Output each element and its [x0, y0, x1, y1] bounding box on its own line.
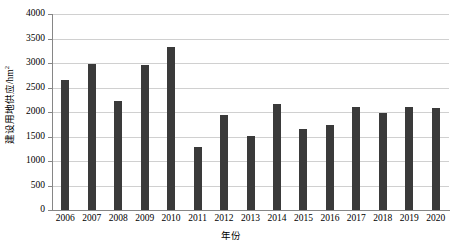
y-axis-unit-superscript: 2: [3, 66, 10, 69]
x-axis-line: [52, 210, 450, 211]
bar: [379, 113, 387, 210]
y-axis-tick-label: 0: [14, 205, 45, 215]
bar: [326, 125, 334, 210]
y-axis-tick-label: 2000: [14, 107, 45, 117]
y-axis-tick-label: 3000: [14, 58, 45, 68]
bar: [247, 136, 255, 210]
bar: [352, 107, 360, 210]
bar: [114, 101, 122, 210]
bar: [167, 47, 175, 210]
bar: [141, 65, 149, 210]
bar-chart: 建设用地供应/hm2 05001000150020002500300035004…: [0, 0, 461, 252]
bar: [220, 115, 228, 210]
bar: [273, 104, 281, 210]
bar: [299, 129, 307, 210]
y-axis-tick-label: 500: [14, 181, 45, 191]
bar: [405, 107, 413, 210]
bar: [432, 108, 440, 210]
y-axis-title: 建设用地供应/hm2: [0, 0, 18, 210]
y-axis-tick-label: 1000: [14, 156, 45, 166]
y-axis-tick-label: 3500: [14, 34, 45, 44]
y-axis-tick-label: 1500: [14, 132, 45, 142]
bar: [194, 147, 202, 210]
plot-area: [52, 14, 449, 210]
y-axis-tick-label: 4000: [14, 9, 45, 19]
y-axis-tick-mark: [48, 210, 52, 211]
bar: [61, 80, 69, 210]
x-axis-title: 年份: [0, 228, 461, 242]
y-axis-tick-label: 2500: [14, 83, 45, 93]
bar: [88, 64, 96, 210]
x-axis-tick-label: 2020: [420, 213, 452, 223]
